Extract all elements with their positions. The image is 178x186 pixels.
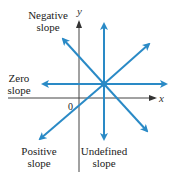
x-axis-label: x	[159, 92, 164, 104]
label-line: Zero	[2, 72, 36, 84]
zero-slope-label: Zero slope	[2, 72, 36, 96]
negative-slope-label: Negative slope	[26, 9, 70, 33]
label-line: slope	[26, 21, 70, 33]
undefined-slope-label: Undefined slope	[80, 145, 128, 169]
intersection-point	[101, 81, 107, 87]
label-line: slope	[80, 157, 128, 169]
label-line: Undefined	[80, 145, 128, 157]
label-line: slope	[16, 157, 62, 169]
origin-label: 0	[68, 101, 73, 113]
label-line: slope	[2, 84, 36, 96]
negative-slope-line	[63, 39, 104, 84]
label-line: Positive	[16, 145, 62, 157]
label-line: Negative	[26, 9, 70, 21]
positive-slope-label: Positive slope	[16, 145, 62, 169]
positive-slope-line	[104, 44, 149, 84]
y-axis-label: y	[77, 5, 82, 17]
